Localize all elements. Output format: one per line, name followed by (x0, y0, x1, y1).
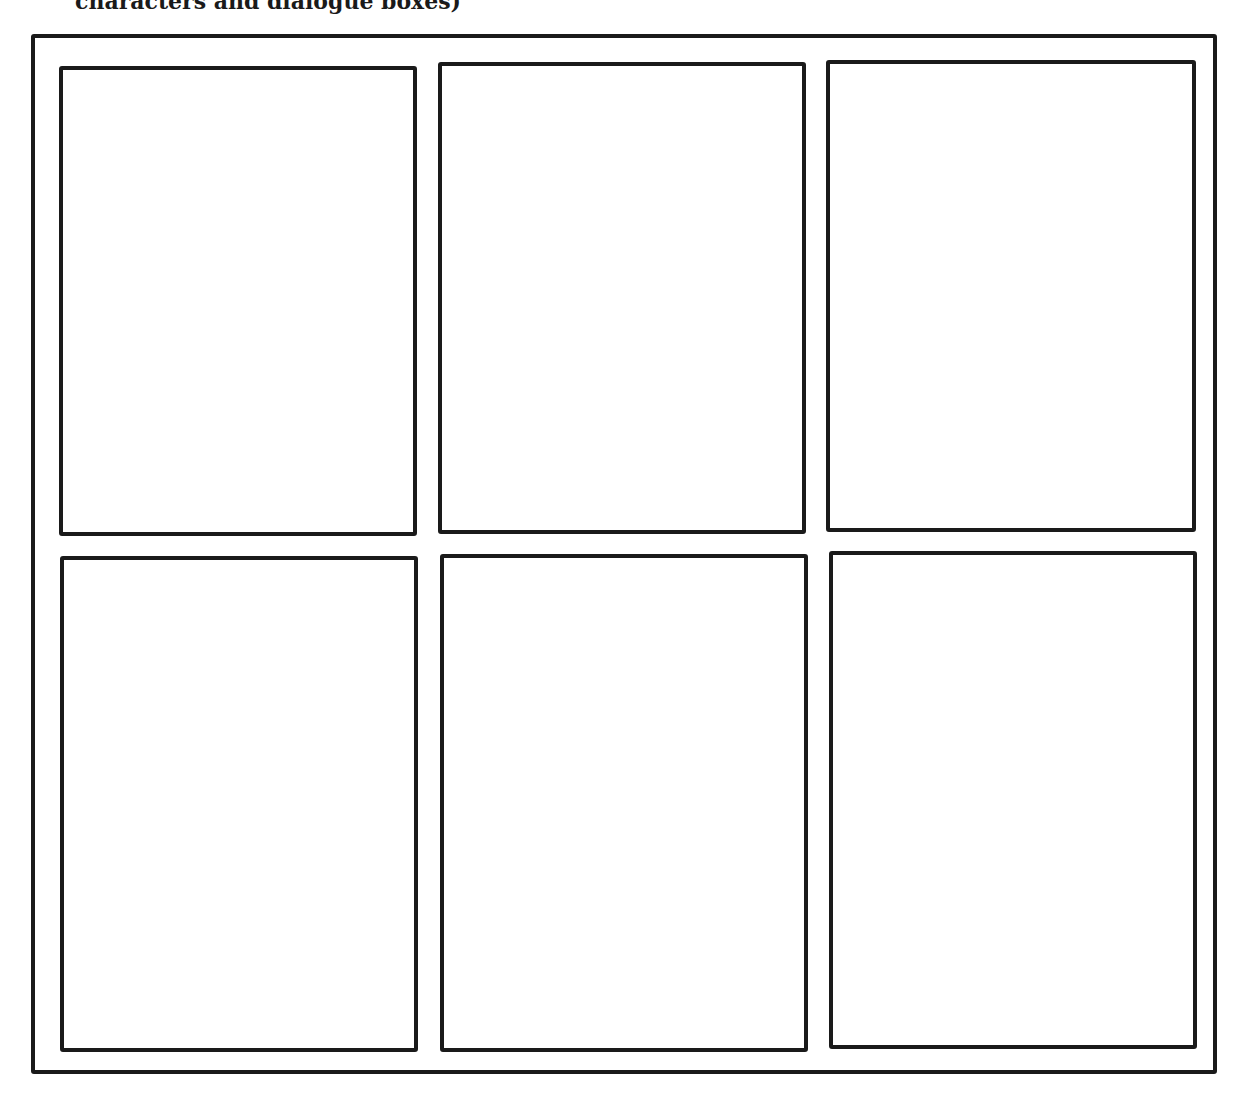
comic-panel-5 (440, 554, 808, 1052)
comic-panel-2 (438, 62, 806, 534)
comic-panel-6 (829, 551, 1197, 1049)
comic-panel-4 (60, 556, 418, 1052)
comic-panel-3 (826, 60, 1196, 532)
comic-panel-1 (59, 66, 417, 536)
partial-header-text: characters and dialogue boxes) (75, 0, 461, 14)
